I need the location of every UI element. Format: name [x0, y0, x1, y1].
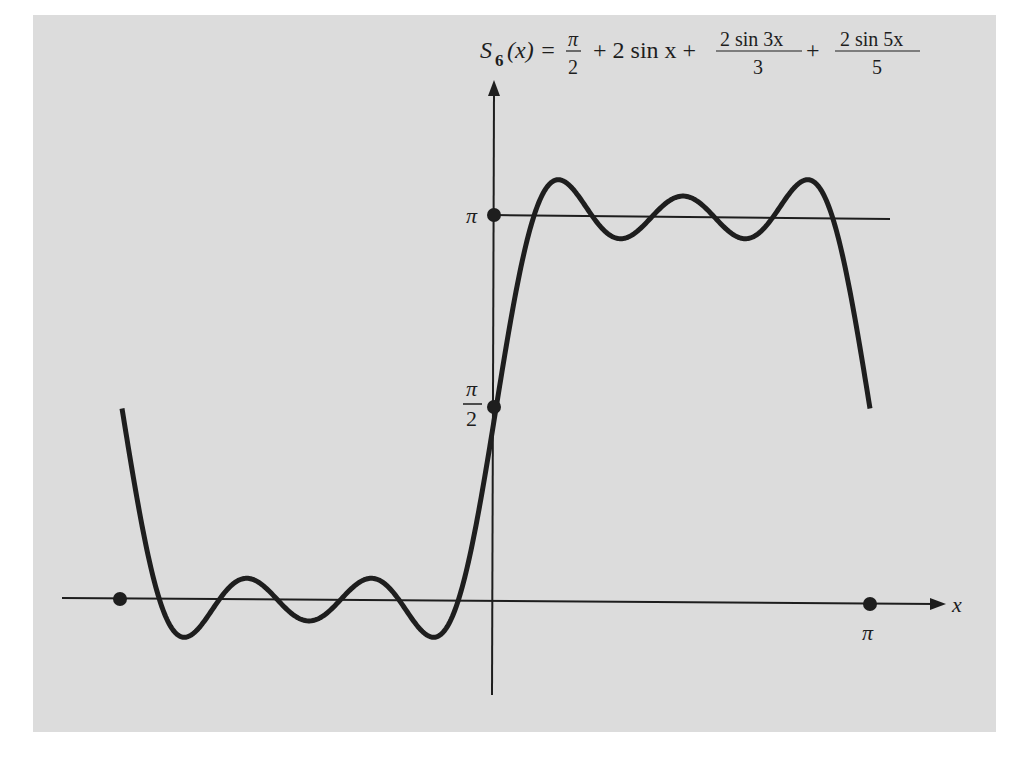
formula-term4-den: 5	[872, 56, 882, 78]
x-tick-pi: π	[862, 620, 874, 645]
x-axis	[62, 598, 936, 604]
formula-lhs-subscript: 6	[495, 51, 504, 70]
point-half-pi	[487, 400, 501, 414]
x-axis-arrow-icon	[930, 598, 946, 610]
formula-lhs-arg: (x) =	[507, 37, 556, 63]
y-tick-half-pi-den: 2	[466, 406, 477, 431]
point-pi	[863, 597, 877, 611]
y-tick-pi: π	[466, 203, 478, 228]
y-tick-half-pi-num: π	[466, 376, 478, 401]
y-axis-arrow-icon	[488, 80, 500, 96]
x-axis-label: x	[951, 592, 962, 617]
fourier-plot: x π π π 2 S 6 (x) = π 2 + 2 sin x + 2 si…	[0, 0, 1029, 762]
point-y-pi	[487, 208, 501, 222]
point-neg-pi	[113, 592, 127, 606]
formula-title: S 6 (x) = π 2 + 2 sin x + 2 sin 3x 3 + 2…	[480, 28, 920, 78]
formula-plus: +	[806, 37, 820, 63]
formula-lhs-symbol: S	[480, 37, 492, 63]
formula-term1-num: π	[568, 28, 579, 50]
formula-term3-den: 3	[753, 56, 763, 78]
formula-term1-den: 2	[568, 56, 578, 78]
formula-term2: + 2 sin x +	[593, 37, 696, 63]
formula-term4-num: 2 sin 5x	[840, 28, 903, 50]
y-axis	[492, 92, 494, 695]
formula-term3-num: 2 sin 3x	[720, 28, 783, 50]
